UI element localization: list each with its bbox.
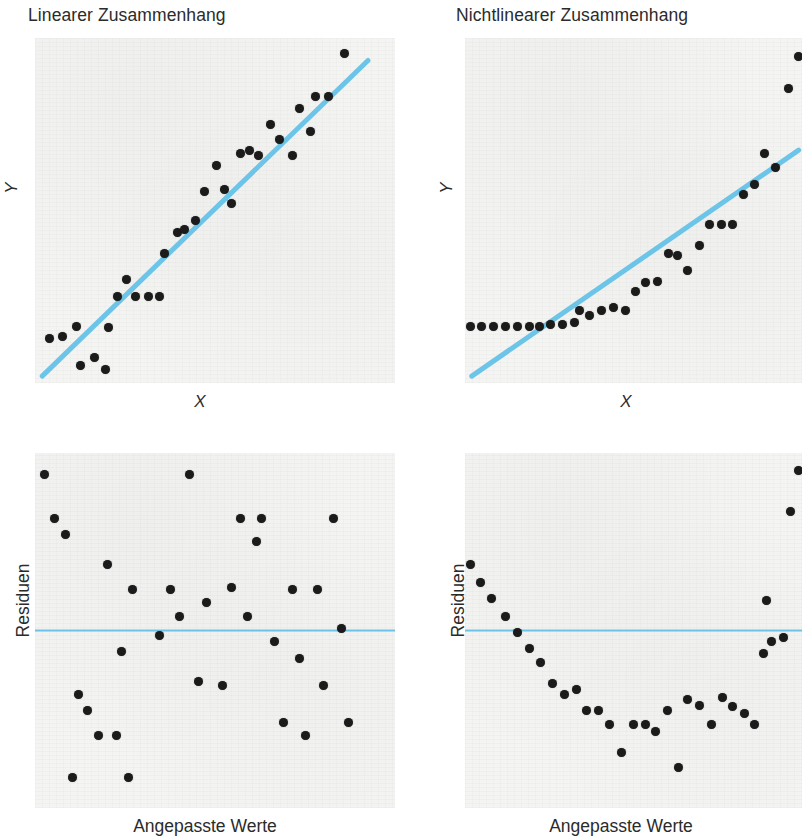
data-point	[570, 318, 579, 327]
data-point	[525, 644, 534, 653]
panel-nonlinear-residuals: Residuen Angepasste Werte	[401, 420, 802, 839]
data-point	[536, 658, 545, 667]
data-point	[155, 292, 164, 301]
data-point	[739, 190, 748, 199]
plot-area-nonlinear-residuals	[465, 453, 802, 808]
data-point	[227, 583, 236, 592]
data-point	[124, 773, 133, 782]
data-point	[605, 720, 614, 729]
data-point	[160, 249, 169, 258]
data-point	[718, 693, 727, 702]
data-point	[288, 585, 297, 594]
data-point	[175, 612, 184, 621]
data-point	[631, 287, 640, 296]
data-point	[40, 470, 49, 479]
data-point	[673, 251, 682, 260]
data-point	[220, 185, 229, 194]
data-point	[306, 127, 315, 136]
data-point	[288, 151, 297, 160]
data-point	[266, 120, 275, 129]
data-point	[717, 220, 726, 229]
data-point	[45, 334, 54, 343]
panel-title-linear: Linearer Zusammenhang	[28, 5, 226, 26]
data-point	[762, 596, 771, 605]
data-point	[180, 225, 189, 234]
data-point	[759, 649, 768, 658]
data-point	[501, 322, 510, 331]
data-point	[200, 187, 209, 196]
data-point	[295, 654, 304, 663]
data-point	[58, 332, 67, 341]
regression-fit-line	[35, 38, 395, 383]
data-point	[513, 322, 522, 331]
data-point	[582, 706, 591, 715]
data-point	[103, 560, 112, 569]
data-point	[83, 706, 92, 715]
plot-area-linear-scatter	[35, 38, 395, 383]
data-point	[329, 514, 338, 523]
data-point	[585, 311, 594, 320]
data-point	[104, 323, 113, 332]
y-axis-label-nonlinear: Y	[437, 178, 457, 198]
data-point	[275, 135, 284, 144]
data-point	[128, 585, 137, 594]
data-point	[651, 727, 660, 736]
panel-nonlinear-scatter: Nichtlinearer Zusammenhang Y X	[401, 0, 802, 420]
data-point	[786, 507, 795, 516]
data-point	[728, 702, 737, 711]
data-point	[663, 706, 672, 715]
data-point	[72, 322, 81, 331]
data-point	[252, 537, 261, 546]
data-point	[501, 612, 510, 621]
data-point	[155, 631, 164, 640]
x-axis-label-nonlinear: X	[606, 392, 646, 412]
data-point	[144, 292, 153, 301]
data-point	[683, 695, 692, 704]
data-point	[122, 275, 131, 284]
figure-residual-diagnostics: Linearer Zusammenhang Y X Nichtlinearer …	[0, 0, 802, 839]
data-point	[313, 585, 322, 594]
panel-title-nonlinear: Nichtlinearer Zusammenhang	[456, 5, 688, 26]
data-point	[466, 560, 475, 569]
data-point	[629, 720, 638, 729]
data-point	[707, 720, 716, 729]
data-point	[212, 161, 221, 170]
data-point	[337, 624, 346, 633]
data-point	[487, 594, 496, 603]
data-point	[191, 216, 200, 225]
data-point	[767, 637, 776, 646]
data-point	[750, 720, 759, 729]
data-point	[784, 84, 793, 93]
data-point	[728, 220, 737, 229]
data-point	[617, 748, 626, 757]
data-point	[74, 690, 83, 699]
regression-fit-line	[465, 38, 802, 383]
data-point	[513, 628, 522, 637]
data-point	[279, 718, 288, 727]
data-point	[90, 353, 99, 362]
data-point	[227, 199, 236, 208]
data-point	[597, 306, 606, 315]
data-point	[166, 585, 175, 594]
data-point	[112, 731, 121, 740]
data-point	[525, 322, 534, 331]
data-point	[771, 163, 780, 172]
data-point	[113, 292, 122, 301]
data-point	[575, 306, 584, 315]
data-point	[245, 146, 254, 155]
data-point	[489, 322, 498, 331]
data-point	[683, 266, 692, 275]
data-point	[236, 149, 245, 158]
data-point	[558, 320, 567, 329]
data-point	[311, 92, 320, 101]
data-point	[641, 278, 650, 287]
y-axis-label-linear: Y	[2, 178, 22, 198]
data-point	[257, 514, 266, 523]
data-point	[254, 151, 263, 160]
data-point	[94, 731, 103, 740]
data-point	[301, 731, 310, 740]
data-point	[466, 322, 475, 331]
data-point	[760, 149, 769, 158]
data-point	[641, 720, 650, 729]
data-point	[218, 681, 227, 690]
